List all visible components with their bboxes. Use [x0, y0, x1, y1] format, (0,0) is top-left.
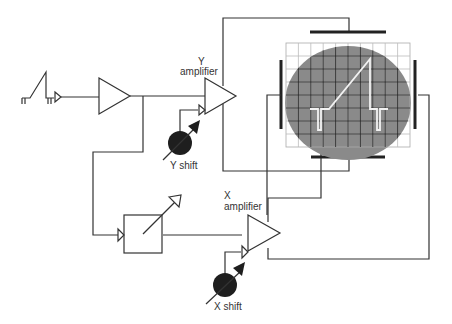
y-amplifier-label-2: amplifier — [180, 66, 218, 77]
x-amplifier-label-1: X — [224, 190, 231, 201]
x-amplifier — [242, 215, 280, 258]
y-shift-label: Y shift — [170, 160, 198, 171]
oscilloscope-diagram: Y amplifier Y shift X amplifier X shift — [0, 0, 452, 324]
input-amplifier — [99, 78, 130, 114]
y-amplifier — [199, 78, 236, 115]
crt-screen — [285, 43, 411, 160]
x-amplifier-label-2: amplifier — [224, 201, 262, 212]
diagram-svg — [0, 0, 452, 324]
x-shift-label: X shift — [214, 301, 242, 312]
timebase-box — [118, 195, 181, 253]
y-shift-knob — [163, 120, 200, 160]
input-waveform — [22, 72, 100, 104]
